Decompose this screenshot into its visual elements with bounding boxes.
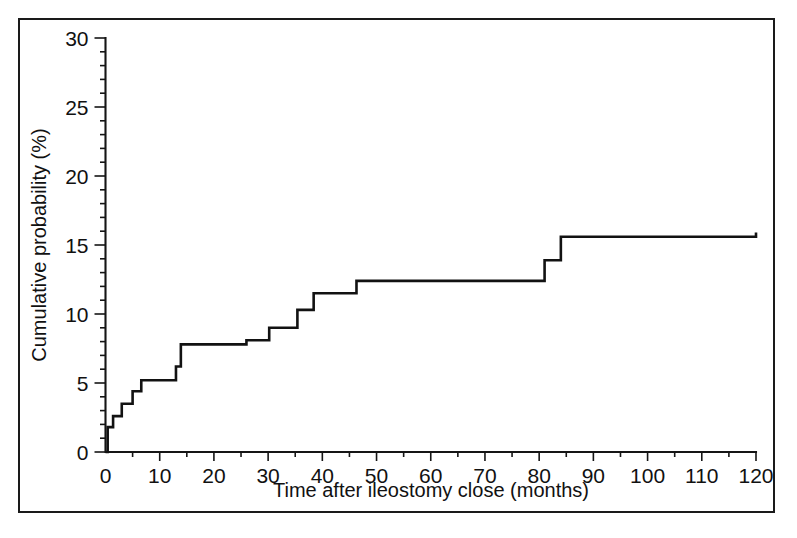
x-tick-label: 120 bbox=[738, 464, 773, 487]
axis-lines bbox=[106, 38, 757, 452]
data-curve-group bbox=[106, 233, 757, 452]
step-curve-line-0 bbox=[106, 233, 757, 452]
figure-container: 0510152025300102030405060708090100110120… bbox=[0, 0, 797, 538]
tick-marks-group bbox=[95, 38, 757, 461]
x-axis-title: Time after ileostomy close (months) bbox=[273, 479, 589, 501]
axes-group bbox=[106, 38, 757, 452]
y-tick-label: 25 bbox=[65, 96, 88, 119]
y-tick-label: 5 bbox=[77, 372, 89, 395]
y-tick-label: 30 bbox=[65, 27, 88, 50]
y-tick-label: 15 bbox=[65, 234, 88, 257]
y-tick-label: 10 bbox=[65, 303, 88, 326]
x-tick-label: 0 bbox=[100, 464, 112, 487]
x-tick-label: 100 bbox=[630, 464, 665, 487]
y-axis-title: Cumulative probability (%) bbox=[28, 128, 50, 361]
y-tick-label: 0 bbox=[77, 441, 89, 464]
x-tick-label: 10 bbox=[148, 464, 171, 487]
x-tick-label: 110 bbox=[685, 464, 718, 487]
x-tick-label: 20 bbox=[202, 464, 225, 487]
step-chart: 0510152025300102030405060708090100110120… bbox=[0, 0, 797, 538]
y-tick-label: 20 bbox=[65, 165, 88, 188]
tick-labels-group: 0510152025300102030405060708090100110120 bbox=[65, 27, 773, 488]
